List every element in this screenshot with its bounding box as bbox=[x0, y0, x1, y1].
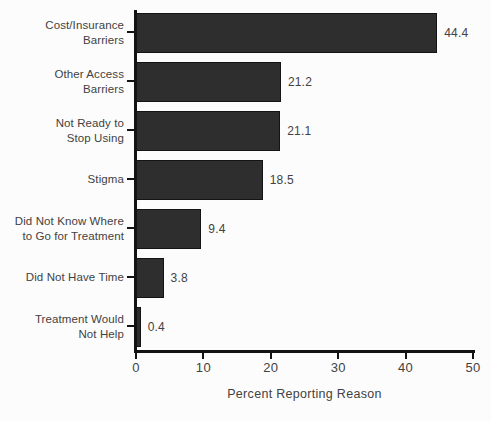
category-label-line: Not Ready to bbox=[0, 116, 124, 131]
category-label: Cost/Insurance Barriers bbox=[0, 18, 124, 47]
x-axis-tick bbox=[472, 352, 474, 359]
bar-row: Not Ready to Stop Using 21.1 bbox=[0, 111, 491, 151]
x-axis-tick bbox=[405, 352, 407, 359]
bar bbox=[136, 258, 164, 298]
value-label: 44.4 bbox=[444, 26, 468, 40]
y-axis-tick bbox=[127, 80, 134, 82]
x-tick-label: 30 bbox=[331, 360, 346, 375]
x-axis-tick bbox=[270, 352, 272, 359]
bar-row: Other Access Barriers 21.2 bbox=[0, 62, 491, 102]
y-axis-tick bbox=[127, 129, 134, 131]
category-label-line: Cost/Insurance bbox=[0, 18, 124, 33]
bar-row: Cost/Insurance Barriers 44.4 bbox=[0, 13, 491, 53]
x-axis-tick bbox=[337, 352, 339, 359]
category-label: Other Access Barriers bbox=[0, 67, 124, 96]
bar-row: Did Not Know Where to Go for Treatment 9… bbox=[0, 209, 491, 249]
value-label: 0.4 bbox=[148, 320, 165, 334]
category-label-line: Did Not Have Time bbox=[0, 270, 124, 285]
category-label-line: Other Access bbox=[0, 67, 124, 82]
bar bbox=[136, 111, 280, 151]
bar bbox=[136, 307, 141, 347]
y-axis-tick bbox=[127, 325, 134, 327]
category-label: Stigma bbox=[0, 172, 124, 187]
y-axis-tick bbox=[127, 31, 134, 33]
category-label-line: Treatment Would bbox=[0, 312, 124, 327]
x-tick-label: 0 bbox=[132, 360, 140, 375]
value-label: 21.1 bbox=[287, 124, 311, 138]
category-label-line: Barriers bbox=[0, 81, 124, 96]
value-label: 21.2 bbox=[288, 75, 312, 89]
category-label-line: Did Not Know Where bbox=[0, 214, 124, 229]
category-label-line: Stop Using bbox=[0, 130, 124, 145]
x-axis-tick bbox=[202, 352, 204, 359]
value-label: 3.8 bbox=[171, 271, 188, 285]
bar-row: Treatment Would Not Help 0.4 bbox=[0, 307, 491, 347]
value-label: 18.5 bbox=[270, 173, 294, 187]
category-label-line: Not Help bbox=[0, 326, 124, 341]
x-axis-title: Percent Reporting Reason bbox=[136, 387, 473, 401]
category-label-line: to Go for Treatment bbox=[0, 228, 124, 243]
x-axis-tick bbox=[135, 352, 137, 359]
category-label: Not Ready to Stop Using bbox=[0, 116, 124, 145]
bar-chart: Cost/Insurance Barriers 44.4 Other Acces… bbox=[0, 0, 491, 421]
bar bbox=[136, 13, 437, 53]
bar bbox=[136, 62, 281, 102]
x-tick-label: 20 bbox=[263, 360, 278, 375]
x-axis-line bbox=[134, 350, 475, 353]
bar-row: Did Not Have Time 3.8 bbox=[0, 258, 491, 298]
y-axis-tick bbox=[127, 227, 134, 229]
x-tick-label: 40 bbox=[398, 360, 413, 375]
category-label: Did Not Know Where to Go for Treatment bbox=[0, 214, 124, 243]
value-label: 9.4 bbox=[208, 222, 225, 236]
category-label: Did Not Have Time bbox=[0, 270, 124, 285]
category-label-line: Stigma bbox=[0, 172, 124, 187]
y-axis-tick bbox=[127, 276, 134, 278]
bar-row: Stigma 18.5 bbox=[0, 160, 491, 200]
category-label: Treatment Would Not Help bbox=[0, 312, 124, 341]
bar bbox=[136, 160, 263, 200]
x-tick-label: 50 bbox=[465, 360, 480, 375]
category-label-line: Barriers bbox=[0, 32, 124, 47]
y-axis-tick bbox=[127, 178, 134, 180]
bar bbox=[136, 209, 201, 249]
x-tick-label: 10 bbox=[196, 360, 211, 375]
